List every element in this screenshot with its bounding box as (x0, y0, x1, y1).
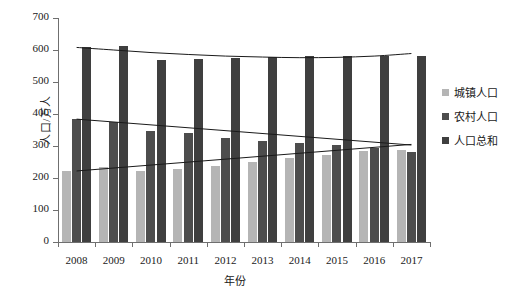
x-tick-label: 2013 (244, 254, 281, 266)
legend-swatch-icon (442, 137, 449, 144)
y-tick-label: 100 (33, 202, 50, 214)
x-tick-label: 2010 (132, 254, 169, 266)
x-tick-label: 2008 (58, 254, 95, 266)
legend-label: 农村人口 (454, 108, 498, 124)
legend-swatch-icon (442, 113, 449, 120)
y-tick-label: 200 (33, 170, 50, 182)
x-tick-mark (393, 242, 394, 247)
population-bar-chart: 人口/万人 0100200300400500600700 20082009201… (0, 0, 513, 296)
x-tick-label: 2014 (281, 254, 318, 266)
trendline (77, 144, 412, 171)
y-tick-label: 300 (33, 138, 50, 150)
x-tick-mark (430, 242, 431, 247)
y-tick-label: 500 (33, 74, 50, 86)
y-tick-label: 600 (33, 42, 50, 54)
x-tick-mark (318, 242, 319, 247)
y-tick-label: 700 (33, 10, 50, 22)
legend-item[interactable]: 城镇人口 (442, 80, 498, 104)
x-tick-mark (58, 242, 59, 247)
x-tick-mark (170, 242, 171, 247)
legend-label: 人口总和 (454, 132, 498, 148)
legend-item[interactable]: 人口总和 (442, 128, 498, 152)
trendline-layer (58, 18, 430, 242)
trendline (77, 119, 412, 145)
y-tick-label: 0 (44, 234, 50, 246)
x-tick-label: 2016 (356, 254, 393, 266)
y-tick-label: 400 (33, 106, 50, 118)
x-tick-mark (281, 242, 282, 247)
plot-area: 0100200300400500600700 20082009201020112… (58, 18, 430, 242)
x-tick-mark (132, 242, 133, 247)
legend-item[interactable]: 农村人口 (442, 104, 498, 128)
x-tick-label: 2015 (318, 254, 355, 266)
x-tick-mark (356, 242, 357, 247)
x-tick-label: 2009 (95, 254, 132, 266)
x-tick-label: 2012 (207, 254, 244, 266)
x-tick-mark (207, 242, 208, 247)
legend-swatch-icon (442, 89, 449, 96)
x-tick-mark (95, 242, 96, 247)
chart-legend: 城镇人口农村人口人口总和 (442, 80, 498, 152)
legend-label: 城镇人口 (454, 84, 498, 100)
trendline (77, 47, 412, 57)
x-tick-label: 2017 (393, 254, 430, 266)
x-tick-label: 2011 (170, 254, 207, 266)
x-tick-mark (244, 242, 245, 247)
x-axis-title: 年份 (0, 272, 470, 288)
